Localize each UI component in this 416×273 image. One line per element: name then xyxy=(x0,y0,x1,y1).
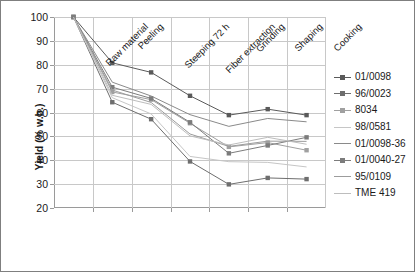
legend-swatch-icon xyxy=(334,121,351,133)
legend-swatch-icon xyxy=(334,88,351,100)
data-point-marker xyxy=(304,148,308,152)
legend-item[interactable]: 95/0109 xyxy=(334,169,414,186)
legend-item[interactable]: 01/0040-27 xyxy=(334,152,414,169)
data-point-marker xyxy=(304,177,308,181)
legend-swatch-icon xyxy=(334,171,351,183)
y-tick-label: 100 xyxy=(30,11,48,23)
data-point-marker xyxy=(188,94,192,98)
data-point-marker xyxy=(266,176,270,180)
data-point-marker xyxy=(227,113,231,117)
y-tick-label: 30 xyxy=(36,178,48,190)
y-tick-label: 70 xyxy=(36,83,48,95)
legend-label: 01/0098 xyxy=(355,72,391,82)
legend-label: 01/0098-36 xyxy=(355,139,406,149)
legend-label: 01/0040-27 xyxy=(355,155,406,165)
x-tick-mark xyxy=(171,208,172,212)
y-tick-label: 20 xyxy=(36,202,48,214)
legend-item[interactable]: TME 419 xyxy=(334,185,414,202)
data-point-marker xyxy=(304,135,308,139)
data-point-marker xyxy=(266,143,270,147)
data-point-marker xyxy=(227,182,231,186)
series-lines xyxy=(54,17,326,208)
legend-item[interactable]: 8034 xyxy=(334,102,414,119)
legend-item[interactable]: 96/0023 xyxy=(334,86,414,103)
y-tick-label: 60 xyxy=(36,107,48,119)
legend-label: 96/0023 xyxy=(355,89,391,99)
y-tick-mark xyxy=(50,208,54,209)
legend-swatch-icon xyxy=(334,71,351,83)
data-point-marker xyxy=(149,70,153,74)
x-tick-mark xyxy=(209,208,210,212)
legend-swatch-icon xyxy=(334,154,351,166)
data-point-marker xyxy=(266,107,270,111)
data-point-marker xyxy=(304,113,308,117)
y-tick-label: 40 xyxy=(36,154,48,166)
legend-label: TME 419 xyxy=(355,188,396,198)
x-tick-label: Cooking xyxy=(331,21,363,53)
legend-item[interactable]: 98/0581 xyxy=(334,119,414,136)
legend-swatch-icon xyxy=(334,138,351,150)
x-tick-mark xyxy=(93,208,94,212)
x-tick-mark xyxy=(132,208,133,212)
legend-swatch-icon xyxy=(334,187,351,199)
legend-swatch-icon xyxy=(334,104,351,116)
y-tick-label: 50 xyxy=(36,130,48,142)
legend: 01/009896/0023803498/058101/0098-3601/00… xyxy=(334,69,414,202)
chart-container: Yield (% w.b.) 1009080706050403020 Raw m… xyxy=(0,0,416,273)
data-point-marker xyxy=(149,96,153,100)
data-point-marker xyxy=(188,120,192,124)
legend-label: 8034 xyxy=(355,105,377,115)
x-tick-mark xyxy=(287,208,288,212)
legend-item[interactable]: 01/0098-36 xyxy=(334,135,414,152)
data-point-marker xyxy=(110,100,114,104)
plot-area: 1009080706050403020 Raw materialPeelingS… xyxy=(54,17,326,208)
y-tick-label: 80 xyxy=(36,59,48,71)
data-point-marker xyxy=(149,117,153,121)
y-tick-label: 90 xyxy=(36,35,48,47)
x-tick-mark xyxy=(248,208,249,212)
data-point-marker xyxy=(227,151,231,155)
legend-label: 98/0581 xyxy=(355,122,391,132)
legend-item[interactable]: 01/0098 xyxy=(334,69,414,86)
data-point-marker xyxy=(188,159,192,163)
legend-label: 95/0109 xyxy=(355,172,391,182)
